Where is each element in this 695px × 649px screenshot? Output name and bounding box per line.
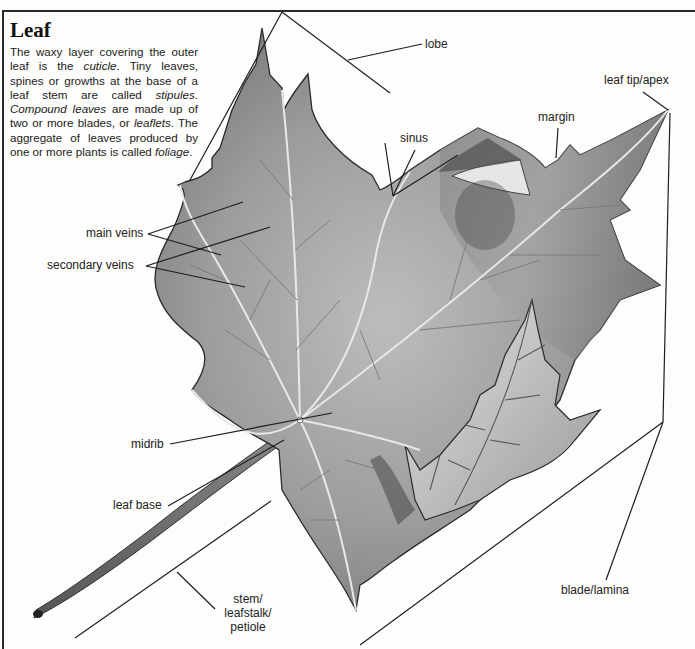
stem-shape: [33, 420, 304, 618]
label-stem-line1: stem/: [214, 592, 282, 606]
label-secondary-veins: secondary veins: [47, 258, 134, 272]
label-midrib: midrib: [131, 437, 164, 451]
label-stem-line3: petiole: [214, 620, 282, 634]
leaf-illustration: [0, 0, 695, 649]
label-sinus: sinus: [400, 131, 428, 145]
label-main-veins: main veins: [86, 226, 143, 240]
label-lobe: lobe: [425, 37, 448, 51]
label-margin: margin: [538, 110, 575, 124]
label-leaf-tip-apex: leaf tip/apex: [604, 73, 669, 87]
label-leaf-base: leaf base: [113, 498, 162, 512]
label-stem-leafstalk-petiole: stem/ leafstalk/ petiole: [214, 592, 282, 634]
label-blade-lamina: blade/lamina: [561, 583, 629, 597]
label-stem-line2: leafstalk/: [214, 606, 282, 620]
